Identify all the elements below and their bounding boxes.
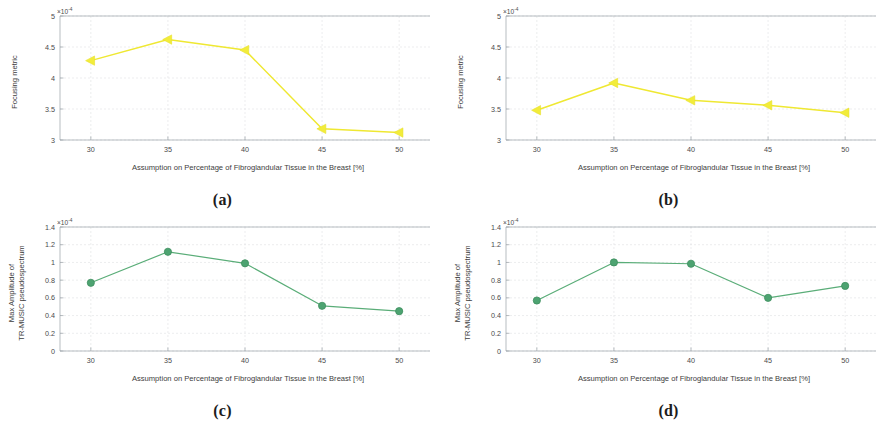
data-point-marker-triangle — [532, 106, 541, 115]
x-tick-label: 40 — [687, 356, 695, 365]
y-tick-label: 1 — [497, 258, 501, 267]
subplot-caption-a: (a) — [0, 191, 445, 209]
y-exponent-c: ×10-4 — [57, 218, 73, 226]
y-exponent-power-a: -4 — [68, 7, 73, 12]
x-axis-title-b: Assumption on Percentage of Fibroglandul… — [578, 163, 810, 172]
y-exponent-power-b: -4 — [514, 7, 519, 12]
data-point-marker-triangle — [163, 35, 172, 44]
x-tick-label: 40 — [687, 145, 695, 154]
y-tick-label: 1.4 — [45, 223, 55, 232]
data-point-marker-circle — [764, 294, 771, 301]
y-exponent-base-a: ×10 — [57, 8, 69, 15]
y-tick-label: 4 — [51, 74, 55, 83]
data-point-marker-triangle — [763, 101, 772, 110]
data-point-marker-triangle — [686, 96, 695, 105]
y-exponent-base-b: ×10 — [503, 8, 515, 15]
chart-svg-a: 33.544.553035404550 ×10-4 Assumption on … — [0, 0, 445, 175]
y-axis-title-line1-c: Max Amplitude of — [7, 263, 16, 322]
y-tick-label: 3.5 — [45, 105, 55, 114]
x-tick-label: 30 — [87, 145, 95, 154]
y-tick-label: 4.5 — [45, 43, 55, 52]
x-tick-label: 45 — [318, 356, 326, 365]
y-tick-label: 0.2 — [45, 329, 55, 338]
grid-group-b — [506, 16, 876, 140]
x-axis-title-c: Assumption on Percentage of Fibroglandul… — [132, 374, 364, 383]
y-tick-label: 4.5 — [491, 43, 501, 52]
y-tick-label: 0.8 — [45, 276, 55, 285]
y-tick-label: 1.2 — [491, 240, 501, 249]
y-exponent-power-c: -4 — [68, 218, 73, 223]
x-tick-label: 50 — [841, 356, 849, 365]
x-tick-label: 30 — [533, 356, 541, 365]
chart-svg-d: 00.20.40.60.811.21.43035404550 ×10-4 Ass… — [446, 211, 891, 386]
plot-area-c: 00.20.40.60.811.21.43035404550 ×10-4 Ass… — [0, 211, 445, 386]
x-tick-label: 50 — [841, 145, 849, 154]
x-tick-label: 35 — [610, 356, 618, 365]
figure-root: 33.544.553035404550 ×10-4 Assumption on … — [0, 0, 891, 422]
y-tick-label: 0.4 — [45, 311, 55, 320]
subplot-caption-c: (c) — [0, 402, 445, 420]
chart-svg-b: 33.544.553035404550 ×10-4 Assumption on … — [446, 0, 891, 175]
y-tick-label: 0.2 — [491, 329, 501, 338]
y-tick-label: 0.6 — [45, 293, 55, 302]
series-group-a — [86, 35, 403, 137]
y-tick-label: 0.8 — [491, 276, 501, 285]
y-exponent-base-d: ×10 — [503, 219, 515, 226]
subplot-caption-b: (b) — [446, 191, 891, 209]
y-axis-title-line2-d: TR-MUSIC pseudospectrum — [463, 245, 472, 340]
y-tick-label: 1 — [51, 258, 55, 267]
data-point-marker-triangle — [86, 56, 95, 65]
y-axis-title-a: Focusing metric — [10, 55, 19, 109]
data-point-marker-circle — [164, 248, 171, 255]
x-tick-label: 40 — [241, 145, 249, 154]
x-tick-label: 50 — [395, 145, 403, 154]
subplot-caption-d: (d) — [446, 402, 891, 420]
subplot-panel-b: 33.544.553035404550 ×10-4 Assumption on … — [446, 0, 891, 211]
y-exponent-b: ×10-4 — [503, 7, 519, 15]
x-axis-title-d: Assumption on Percentage of Fibroglandul… — [578, 374, 810, 383]
y-exponent-a: ×10-4 — [57, 7, 73, 15]
data-point-marker-circle — [241, 260, 248, 267]
plot-area-a: 33.544.553035404550 ×10-4 Assumption on … — [0, 0, 445, 175]
y-tick-label: 1.4 — [491, 223, 501, 232]
data-point-marker-circle — [533, 297, 540, 304]
y-exponent-d: ×10-4 — [503, 218, 519, 226]
y-tick-label: 5 — [51, 12, 55, 21]
data-point-marker-circle — [842, 282, 849, 289]
x-tick-label: 40 — [241, 356, 249, 365]
y-tick-label: 4 — [497, 74, 501, 83]
subplot-panel-a: 33.544.553035404550 ×10-4 Assumption on … — [0, 0, 445, 211]
x-tick-label: 30 — [533, 145, 541, 154]
y-tick-label: 3 — [497, 136, 501, 145]
y-tick-label: 3 — [51, 136, 55, 145]
subplot-panel-d: 00.20.40.60.811.21.43035404550 ×10-4 Ass… — [446, 211, 891, 422]
x-tick-label: 35 — [164, 356, 172, 365]
ticklabels-group-b: 33.544.553035404550 — [491, 12, 849, 154]
data-point-marker-triangle — [394, 128, 403, 137]
y-tick-label: 0.6 — [491, 293, 501, 302]
x-tick-label: 45 — [318, 145, 326, 154]
y-tick-label: 1.2 — [45, 240, 55, 249]
x-axis-title-a: Assumption on Percentage of Fibroglandul… — [132, 163, 364, 172]
x-tick-label: 30 — [87, 356, 95, 365]
data-point-marker-circle — [687, 260, 694, 267]
data-point-marker-circle — [87, 279, 94, 286]
data-point-marker-triangle — [609, 78, 618, 87]
x-tick-label: 50 — [395, 356, 403, 365]
y-exponent-power-d: -4 — [514, 218, 519, 223]
y-tick-label: 0.4 — [491, 311, 501, 320]
y-axis-title-b: Focusing metric — [456, 55, 465, 109]
series-group-b — [532, 78, 849, 117]
y-axis-title-line2-c: TR-MUSIC pseudospectrum — [17, 245, 26, 340]
grid-group-c — [60, 227, 430, 351]
ticklabels-group-a: 33.544.553035404550 — [45, 12, 403, 154]
y-tick-label: 5 — [497, 12, 501, 21]
data-point-marker-circle — [610, 259, 617, 266]
y-tick-label: 0 — [51, 347, 55, 356]
plot-area-d: 00.20.40.60.811.21.43035404550 ×10-4 Ass… — [446, 211, 891, 386]
grid-group-d — [506, 227, 876, 351]
x-tick-label: 35 — [610, 145, 618, 154]
data-point-marker-triangle — [840, 108, 849, 117]
x-tick-label: 45 — [764, 356, 772, 365]
plot-area-b: 33.544.553035404550 ×10-4 Assumption on … — [446, 0, 891, 175]
